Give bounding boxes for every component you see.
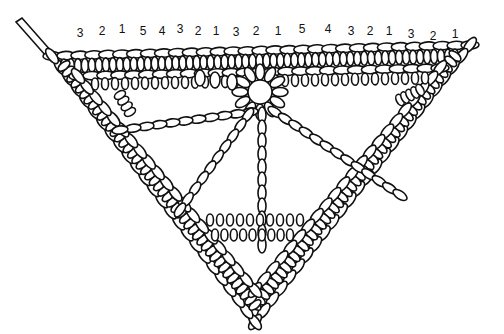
stitch-count-label: 1	[386, 25, 393, 37]
stitch-count-label: 3	[77, 27, 84, 39]
stitch-count-label: 2	[430, 30, 437, 42]
stitch-count-label: 4	[325, 23, 332, 35]
crochet-triangle-illustration	[0, 0, 504, 334]
center-flower	[248, 80, 272, 104]
stitch-count-label: 1	[119, 23, 126, 35]
stitch-count-label: 5	[140, 25, 147, 37]
stitch-count-label: 2	[367, 25, 374, 37]
crochet-diagram: 3215432132154321321	[0, 0, 504, 334]
stitch-count-label: 3	[408, 28, 415, 40]
stitch-count-label: 3	[233, 26, 240, 38]
stitch-count-label: 3	[177, 23, 184, 35]
stitch-count-label: 1	[275, 25, 282, 37]
stitch-count-label: 3	[348, 25, 355, 37]
stitch-count-label: 2	[253, 25, 260, 37]
stitch-count-label: 1	[213, 25, 220, 37]
stitch-count-label: 1	[452, 28, 459, 40]
stitch-count-label: 5	[299, 23, 306, 35]
stitch-count-label: 2	[195, 25, 202, 37]
stitch-count-label: 2	[99, 25, 106, 37]
stitch-count-label: 4	[159, 25, 166, 37]
